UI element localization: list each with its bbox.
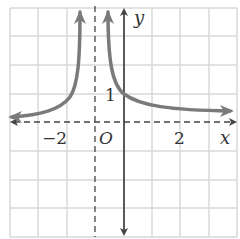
y-tick-label-1: 1 [105,85,116,105]
x-tick-label-2: 2 [174,128,185,148]
x-axis-label: x [220,127,230,148]
curve-right-branch [108,12,230,111]
y-axis-label: y [133,7,145,28]
graph: y x O −2 2 1 [0,0,240,239]
x-tick-label-neg2: −2 [42,128,67,148]
origin-label: O [99,128,113,148]
